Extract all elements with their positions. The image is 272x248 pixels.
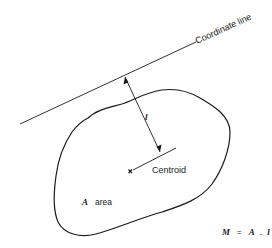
centroid-marker-icon bbox=[129, 170, 133, 174]
centroid-label: Centroid bbox=[152, 165, 186, 175]
svg-text:Coordinate line: Coordinate line bbox=[194, 12, 253, 46]
area-boundary bbox=[54, 89, 230, 235]
formula: M = A . l bbox=[221, 221, 270, 238]
centroid-moment-diagram: Coordinate line l Centroid A area M = A … bbox=[0, 0, 272, 248]
area-label: A area bbox=[81, 191, 112, 208]
coordinate-line-label: Coordinate line bbox=[194, 12, 253, 46]
distance-label: l bbox=[145, 112, 148, 122]
distance-arrow-line bbox=[125, 77, 160, 152]
coordinate-line bbox=[20, 42, 196, 124]
